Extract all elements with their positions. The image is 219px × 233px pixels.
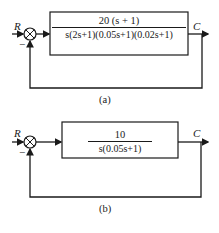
input-label-b: R: [14, 127, 21, 139]
transfer-function-a: 20 (s + 1) s(2s+1)(0.05s+1)(0.02s+1): [52, 15, 186, 41]
numerator-a: 20 (s + 1): [52, 15, 186, 27]
denominator-a: s(2s+1)(0.05s+1)(0.02s+1): [52, 27, 186, 41]
transfer-function-b: 10 s(0.05s+1): [88, 129, 152, 155]
summing-junction-b: [24, 136, 36, 148]
caption-a: (a): [99, 94, 111, 105]
caption-b: (b): [99, 203, 111, 214]
feedback-sign-a: −: [19, 38, 25, 50]
input-label-a: R: [14, 20, 21, 32]
output-label-a: C: [193, 20, 200, 32]
output-label-b: C: [193, 127, 200, 139]
denominator-b: s(0.05s+1): [88, 141, 152, 155]
feedback-sign-b: −: [19, 146, 25, 158]
summing-junction-a: [24, 28, 36, 40]
numerator-b: 10: [88, 129, 152, 141]
